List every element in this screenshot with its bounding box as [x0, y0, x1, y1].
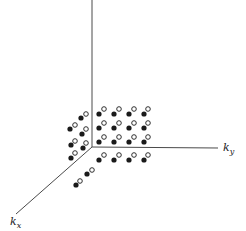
filled-point [111, 157, 116, 162]
point-pair [78, 112, 88, 121]
filled-point [111, 125, 116, 130]
filled-point [126, 125, 131, 130]
hollow-point [146, 135, 151, 140]
point-pair [141, 121, 150, 131]
point-pair [126, 135, 136, 145]
hollow-point [102, 135, 107, 140]
hollow-point [90, 168, 95, 173]
hollow-point [84, 141, 89, 146]
filled-point [80, 145, 85, 150]
hollow-point [132, 153, 137, 158]
point-pair [80, 141, 88, 151]
filled-point [111, 139, 116, 144]
hollow-point [73, 123, 78, 128]
hollow-point [102, 107, 107, 112]
filled-point [79, 131, 84, 136]
hollow-point [117, 135, 122, 140]
point-pair [84, 168, 94, 177]
filled-point [68, 142, 73, 147]
point-pair [96, 135, 106, 145]
filled-point [96, 111, 101, 116]
hollow-point [73, 151, 78, 156]
hollow-point [78, 179, 83, 184]
hollow-point [102, 121, 107, 126]
hollow-point [146, 153, 151, 158]
filled-point [141, 125, 146, 130]
filled-point [96, 139, 101, 144]
point-pair [111, 107, 121, 117]
hollow-point [117, 121, 122, 126]
point-pair [79, 127, 88, 137]
filled-point [96, 157, 101, 162]
point-pair [96, 121, 106, 131]
ky-label-sub: y [229, 147, 235, 156]
hollow-point [132, 107, 137, 112]
hollow-point [73, 139, 78, 144]
point-pair [141, 107, 150, 117]
kx-label-sub: x [17, 221, 22, 230]
hollow-point [132, 121, 137, 126]
axes [16, 0, 218, 214]
hollow-point [84, 112, 89, 117]
filled-point [126, 157, 131, 162]
point-pair [126, 107, 136, 117]
point-pair [96, 107, 106, 117]
point-pair [68, 139, 77, 148]
k-space-diagram: ky kx [0, 0, 246, 231]
point-pair [141, 153, 150, 163]
filled-point [68, 155, 73, 160]
filled-point [67, 126, 72, 131]
point-pair [111, 121, 121, 131]
hollow-point [117, 153, 122, 158]
hollow-point [117, 107, 122, 112]
hollow-point [146, 121, 151, 126]
filled-point [141, 111, 146, 116]
hollow-point [84, 127, 89, 132]
hollow-point [146, 107, 151, 112]
point-pair [73, 179, 82, 188]
filled-point [126, 139, 131, 144]
ky-axis-label: ky [223, 141, 235, 156]
filled-point [73, 182, 78, 187]
hollow-point [132, 135, 137, 140]
point-pair [126, 121, 136, 131]
filled-point [78, 115, 83, 120]
filled-point [141, 139, 146, 144]
filled-point [126, 111, 131, 116]
point-pair [111, 135, 121, 145]
point-pair [96, 153, 106, 163]
point-pair [141, 135, 150, 145]
filled-point [111, 111, 116, 116]
filled-point [96, 125, 101, 130]
hollow-point [102, 153, 107, 158]
point-pair [68, 151, 77, 161]
point-pair [111, 153, 121, 163]
kx-axis-label: kx [10, 215, 22, 230]
filled-point [84, 171, 89, 176]
point-pair [126, 153, 136, 163]
point-pair [67, 123, 77, 132]
filled-point [141, 157, 146, 162]
ky-axis [92, 147, 218, 148]
